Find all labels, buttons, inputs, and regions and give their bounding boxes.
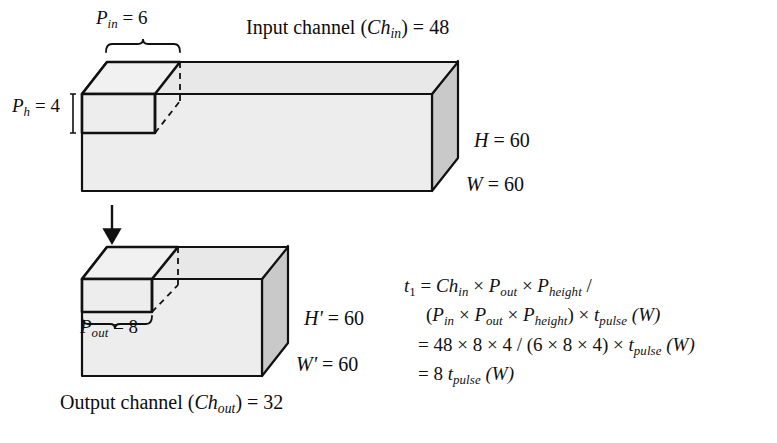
figure-canvas: Pin = 6 Ph = 4 Input channel (Chin) = 48… [0, 0, 777, 443]
eq2-op-c: × [579, 304, 590, 325]
w-value: = 60 [488, 173, 524, 195]
output-block [82, 246, 288, 376]
eq4-equals: = [418, 363, 429, 384]
equation-line-2: (Pin × Pout × Pheight) × tpulse (W) [404, 301, 695, 330]
eq2-term1-sub: out [486, 313, 503, 328]
eq2-term2-symbol: P [523, 304, 535, 325]
eq2-op-a: × [459, 304, 470, 325]
eq3-slash: / [517, 334, 522, 355]
eq4-tail-sub: pulse [453, 371, 481, 386]
eq1-term1-sub: out [500, 284, 517, 299]
eq2-op-b: × [508, 304, 519, 325]
input-patch-width-label: Pin = 6 [96, 8, 148, 30]
output-channel-prefix: Output channel ( [60, 391, 194, 413]
output-patch-width-label: Pout = 8 [80, 317, 138, 339]
eq2-term0-sub: in [444, 313, 454, 328]
eq1-term0-sub: in [458, 284, 468, 299]
eq2-term0-symbol: P [432, 304, 444, 325]
symbol-p-in: P [96, 7, 108, 28]
input-patch-front-face [82, 94, 155, 133]
eq2-close-paren: ) [568, 304, 574, 325]
eq3-tail-paren: (W) [666, 334, 694, 355]
h-value: = 60 [493, 129, 529, 151]
input-channel-label: Input channel (Chin) = 48 [246, 17, 449, 41]
subscript-in: in [108, 16, 118, 31]
eq3-op: × [613, 334, 624, 355]
ph-value: = 4 [35, 95, 60, 116]
eq-equals-1: = [421, 275, 432, 296]
subscript-out: out [92, 325, 109, 340]
eq4-coefficient: 8 [433, 363, 443, 384]
output-width-label: W' = 60 [296, 354, 358, 375]
output-channel-label: Output channel (Chout) = 32 [60, 392, 283, 416]
symbol-ch-in: Ch [367, 16, 390, 38]
eq4-tail-paren: (W) [486, 363, 514, 384]
eq1-op-a: × [473, 275, 484, 296]
symbol-ch-out: Ch [194, 391, 217, 413]
eq2-tail-sub: pulse [599, 313, 627, 328]
eq3-denominator: (6 × 8 × 4) [527, 334, 609, 355]
output-patch-front-face [82, 279, 152, 312]
output-channel-suffix: ) = 32 [235, 391, 283, 413]
eq1-term2-sub: height [549, 284, 582, 299]
eq1-term1-symbol: P [489, 275, 501, 296]
input-patch-height-label: Ph = 4 [12, 96, 60, 118]
pout-value: = 8 [113, 316, 138, 337]
eq3-numerator: 48 × 8 × 4 [433, 334, 511, 355]
input-height-label: H = 60 [474, 130, 530, 151]
output-height-label: H' = 60 [304, 308, 364, 329]
input-ph-tick [70, 94, 76, 133]
subscript-ch-in: in [390, 26, 401, 41]
equation-line-1: t1 = Chin × Pout × Pheight / [404, 272, 695, 301]
equation-line-4: = 8 tpulse (W) [404, 360, 695, 389]
equation-block: t1 = Chin × Pout × Pheight / (Pin × Pout… [404, 272, 695, 389]
symbol-w: W [466, 173, 483, 195]
input-width-label: W = 60 [466, 174, 524, 195]
subscript-ch-out: out [218, 401, 236, 416]
eq-lhs-subscript: 1 [409, 284, 416, 299]
w-prime-value: = 60 [322, 353, 358, 375]
eq1-term2-symbol: P [537, 275, 549, 296]
input-channel-prefix: Input channel ( [246, 16, 367, 38]
symbol-h-prime: H' [304, 307, 323, 329]
eq2-tail-paren: (W) [632, 304, 660, 325]
symbol-w-prime: W' [296, 353, 317, 375]
eq1-term0-symbol: Ch [436, 275, 458, 296]
symbol-p-h: P [12, 95, 24, 116]
input-block [70, 39, 458, 191]
input-channel-suffix: ) = 48 [401, 16, 449, 38]
h-prime-value: = 60 [328, 307, 364, 329]
eq1-op-b: × [522, 275, 533, 296]
eq3-tail-sub: pulse [634, 342, 662, 357]
eq2-term1-symbol: P [474, 304, 486, 325]
input-pin-brace [106, 39, 180, 52]
eq3-equals: = [418, 334, 429, 355]
pin-value: = 6 [123, 7, 148, 28]
eq2-term2-sub: height [535, 313, 568, 328]
eq1-slash: / [587, 275, 592, 296]
symbol-p-out: P [80, 316, 92, 337]
subscript-h: h [24, 104, 31, 119]
equation-line-3: = 48 × 8 × 4 / (6 × 8 × 4) × tpulse (W) [404, 331, 695, 360]
symbol-h: H [474, 129, 488, 151]
